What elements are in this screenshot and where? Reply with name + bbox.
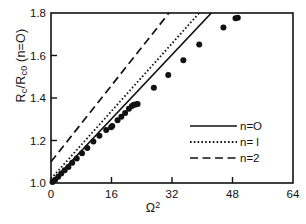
- x-axis-label-sup: 2: [155, 200, 160, 210]
- data-point: [79, 150, 85, 156]
- series-line-n=1: [51, 13, 199, 179]
- chart-legend: n=On= ln=2: [190, 120, 262, 164]
- y-axis-label: Rc/Rc0 (n=O): [14, 1, 29, 131]
- x-tick-label: 32: [166, 188, 179, 200]
- data-point: [96, 133, 102, 139]
- y-tick-label: 1.4: [30, 92, 47, 104]
- y-axis-label-r2: R: [14, 76, 28, 85]
- tick-marks: [51, 56, 233, 184]
- data-point: [235, 15, 241, 21]
- figure-root: 0163248641.01.21.41.61.8 n=On= ln=2 Rc/R…: [0, 0, 306, 224]
- data-point: [69, 160, 75, 166]
- legend-label-2: n=2: [240, 152, 260, 164]
- data-point: [109, 123, 115, 129]
- chart-canvas: 0163248641.01.21.41.61.8 n=On= ln=2: [0, 0, 306, 224]
- data-point: [84, 145, 90, 151]
- data-point: [220, 24, 226, 30]
- y-axis-label-paren: (n=O): [14, 29, 28, 62]
- y-axis-label-sub2: c0: [19, 66, 29, 76]
- data-point: [74, 156, 80, 162]
- y-tick-label: 1.2: [30, 135, 46, 147]
- data-point: [135, 101, 141, 107]
- y-axis-label-sub1: c: [19, 88, 29, 93]
- x-tick-label: 16: [105, 188, 118, 200]
- data-point: [151, 85, 157, 91]
- x-axis-label-base: Ω: [146, 201, 155, 215]
- data-point: [165, 72, 171, 78]
- x-tick-label: 48: [226, 188, 239, 200]
- data-point: [196, 41, 202, 47]
- y-tick-label: 1.6: [30, 50, 46, 62]
- x-tick-label: 0: [48, 188, 54, 200]
- y-axis-label-r1: R: [14, 93, 28, 102]
- y-tick-label: 1.0: [30, 177, 46, 189]
- data-point: [180, 57, 186, 63]
- data-series: [50, 13, 241, 185]
- tick-labels: 0163248641.01.21.41.61.8: [30, 7, 300, 200]
- y-axis-label-slash: /: [14, 85, 28, 89]
- legend-label-1: n= l: [240, 136, 259, 148]
- y-tick-label: 1.8: [30, 7, 46, 19]
- x-tick-label: 64: [287, 188, 300, 200]
- legend-label-0: n=O: [240, 120, 262, 132]
- x-axis-label: Ω2: [0, 200, 306, 215]
- data-point: [90, 139, 96, 145]
